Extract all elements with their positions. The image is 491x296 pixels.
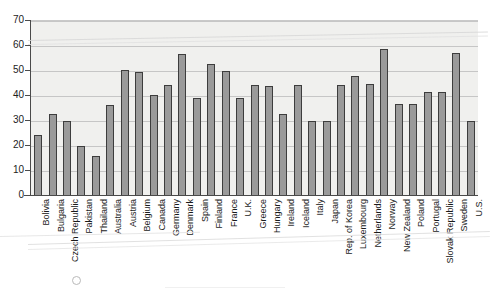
bar-slot bbox=[132, 20, 146, 195]
bar-sweden bbox=[452, 53, 460, 196]
bar-bulgaria bbox=[49, 114, 57, 195]
bar-slot bbox=[363, 20, 377, 195]
bar-slot bbox=[118, 20, 132, 195]
x-label-slot: Norway bbox=[377, 197, 391, 296]
scan-artifact-speck bbox=[72, 276, 81, 285]
bar-slot bbox=[45, 20, 59, 195]
x-label-slot: Australia bbox=[103, 197, 117, 296]
bar-slot bbox=[420, 20, 434, 195]
bar-slot bbox=[435, 20, 449, 195]
y-axis-labels: 010203040506070 bbox=[0, 0, 24, 296]
y-tick-label-40: 40 bbox=[0, 90, 24, 100]
bar-hungary bbox=[265, 86, 273, 195]
bar-france bbox=[222, 71, 230, 195]
x-label-slot: Greece bbox=[247, 197, 261, 296]
x-axis-labels: BoliviaBulgariaCzech RepublicPakistanTha… bbox=[31, 197, 478, 296]
x-label-slot: Denmark bbox=[175, 197, 189, 296]
bar-slot bbox=[305, 20, 319, 195]
bar-germany bbox=[164, 85, 172, 196]
bar-norway bbox=[380, 49, 388, 195]
bar-belgium bbox=[135, 72, 143, 195]
bar-slovak-republic bbox=[438, 92, 446, 195]
bar-slot bbox=[60, 20, 74, 195]
bar-slot bbox=[103, 20, 117, 195]
bar-slot bbox=[233, 20, 247, 195]
x-label-slot: Belgium bbox=[132, 197, 146, 296]
x-label-slot: Portugal bbox=[420, 197, 434, 296]
x-label-slot: Spain bbox=[190, 197, 204, 296]
bar-slot bbox=[175, 20, 189, 195]
x-label-slot: Slovak Republic bbox=[435, 197, 449, 296]
bar-iceland bbox=[294, 85, 302, 195]
y-tick-label-60: 60 bbox=[0, 40, 24, 50]
x-label-slot: New Zealand bbox=[392, 197, 406, 296]
x-label-slot: U.S. bbox=[464, 197, 478, 296]
bar-chart: 010203040506070 BoliviaBulgariaCzech Rep… bbox=[0, 0, 491, 296]
bar-u-s bbox=[467, 121, 475, 196]
bar-slot bbox=[247, 20, 261, 195]
x-label-slot: Rep. of Korea bbox=[334, 197, 348, 296]
bar-slot bbox=[319, 20, 333, 195]
bar-slot bbox=[406, 20, 420, 195]
x-label-slot: Japan bbox=[319, 197, 333, 296]
bar-spain bbox=[193, 98, 201, 195]
x-label-slot: Canada bbox=[146, 197, 160, 296]
x-label-slot: Austria bbox=[118, 197, 132, 296]
bar-new-zealand bbox=[395, 104, 403, 195]
bar-slot bbox=[464, 20, 478, 195]
bar-czech-republic bbox=[63, 121, 71, 195]
bar-slot bbox=[377, 20, 391, 195]
bar-australia bbox=[106, 105, 114, 195]
bar-slot bbox=[146, 20, 160, 195]
bar-luxembourg bbox=[351, 76, 359, 195]
bar-canada bbox=[150, 95, 158, 195]
x-tick-label: U.S. bbox=[475, 199, 484, 217]
x-label-slot: U.K. bbox=[233, 197, 247, 296]
y-tick-label-50: 50 bbox=[0, 65, 24, 75]
x-label-slot: Thailand bbox=[89, 197, 103, 296]
x-label-slot: Italy bbox=[305, 197, 319, 296]
x-label-slot: Netherlands bbox=[363, 197, 377, 296]
bar-japan bbox=[323, 121, 331, 196]
bar-slot bbox=[190, 20, 204, 195]
bar-slot bbox=[74, 20, 88, 195]
bar-portugal bbox=[424, 92, 432, 195]
x-axis-line bbox=[24, 195, 478, 196]
x-label-slot: Bulgaria bbox=[45, 197, 59, 296]
x-label-slot: France bbox=[218, 197, 232, 296]
y-tick-label-0: 0 bbox=[0, 190, 24, 200]
bar-thailand bbox=[92, 156, 100, 195]
bar-pakistan bbox=[77, 146, 85, 195]
bar-slot bbox=[161, 20, 175, 195]
x-label-slot: Poland bbox=[406, 197, 420, 296]
bar-slot bbox=[392, 20, 406, 195]
x-label-slot: Bolivia bbox=[31, 197, 45, 296]
bar-bolivia bbox=[34, 135, 42, 195]
y-tick-label-20: 20 bbox=[0, 140, 24, 150]
x-label-slot: Sweden bbox=[449, 197, 463, 296]
y-tick-label-70: 70 bbox=[0, 15, 24, 25]
bar-slot bbox=[348, 20, 362, 195]
bar-netherlands bbox=[366, 84, 374, 195]
bar-rep-of-korea bbox=[337, 85, 345, 195]
x-label-slot: Ireland bbox=[276, 197, 290, 296]
bar-slot bbox=[276, 20, 290, 195]
bar-slot bbox=[89, 20, 103, 195]
bar-slot bbox=[204, 20, 218, 195]
bar-denmark bbox=[178, 54, 186, 195]
bar-series bbox=[31, 20, 478, 195]
y-tick-label-30: 30 bbox=[0, 115, 24, 125]
bar-austria bbox=[121, 70, 129, 195]
x-label-slot: Luxembourg bbox=[348, 197, 362, 296]
y-tick-label-10: 10 bbox=[0, 165, 24, 175]
bar-slot bbox=[291, 20, 305, 195]
bar-slot bbox=[334, 20, 348, 195]
x-label-slot: Germany bbox=[161, 197, 175, 296]
bar-poland bbox=[409, 104, 417, 195]
bar-slot bbox=[218, 20, 232, 195]
x-label-slot: Iceland bbox=[291, 197, 305, 296]
x-label-slot: Finland bbox=[204, 197, 218, 296]
bar-ireland bbox=[279, 114, 287, 195]
bar-slot bbox=[262, 20, 276, 195]
bar-finland bbox=[207, 64, 215, 195]
